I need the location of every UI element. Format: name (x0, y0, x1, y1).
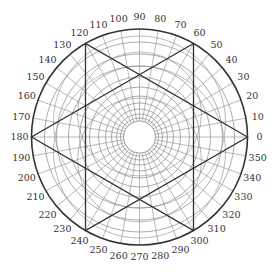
angle-label-160: 160 (18, 90, 36, 101)
angle-label-190: 190 (12, 152, 30, 163)
angle-label-350: 350 (249, 152, 267, 163)
angle-label-200: 200 (18, 172, 36, 183)
angle-label-120: 120 (70, 27, 88, 38)
angle-label-320: 320 (222, 209, 240, 220)
angle-label-310: 310 (208, 223, 226, 234)
angle-label-260: 260 (110, 250, 128, 261)
angle-label-40: 40 (225, 54, 237, 65)
angle-label-170: 170 (12, 111, 30, 122)
angle-label-250: 250 (89, 244, 107, 255)
polar-diagram: 0102030405060708090100110120130140150160… (0, 0, 278, 272)
angle-label-0: 0 (256, 131, 262, 142)
angle-label-70: 70 (174, 19, 186, 30)
angle-label-90: 90 (133, 11, 145, 22)
angle-label-140: 140 (38, 54, 56, 65)
inner-circle (124, 121, 156, 153)
angle-label-240: 240 (70, 235, 88, 246)
angle-label-10: 10 (252, 111, 264, 122)
angle-label-330: 330 (234, 191, 252, 202)
polar-grid-svg: 0102030405060708090100110120130140150160… (0, 0, 278, 272)
angle-label-20: 20 (246, 90, 258, 101)
angle-label-210: 210 (27, 191, 45, 202)
angle-label-270: 270 (130, 251, 148, 262)
angle-label-30: 30 (237, 71, 249, 82)
angle-label-280: 280 (151, 250, 169, 261)
angle-label-80: 80 (154, 13, 166, 24)
angle-label-230: 230 (53, 223, 71, 234)
angle-label-100: 100 (110, 13, 128, 24)
angle-label-290: 290 (171, 244, 189, 255)
angle-label-110: 110 (89, 19, 107, 30)
angle-label-50: 50 (211, 39, 223, 50)
angle-label-150: 150 (27, 71, 45, 82)
angle-label-340: 340 (243, 172, 261, 183)
angle-label-60: 60 (193, 27, 205, 38)
angle-label-220: 220 (38, 209, 56, 220)
angle-label-300: 300 (190, 235, 208, 246)
angle-label-180: 180 (10, 131, 28, 142)
radial-spokes (32, 29, 248, 245)
angle-label-130: 130 (53, 39, 71, 50)
